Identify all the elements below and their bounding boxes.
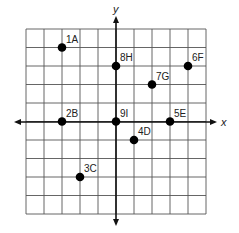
point-dot: [112, 117, 121, 126]
point-label: 3C: [84, 163, 97, 174]
point-dot: [58, 117, 67, 126]
x-axis-left-arrow-icon: [14, 119, 21, 125]
point-label: 6F: [192, 52, 204, 63]
point-dot: [58, 43, 67, 52]
point-label: 1A: [66, 34, 79, 45]
point-5e: 5E: [166, 108, 187, 126]
point-label: 4D: [138, 126, 151, 137]
point-label: 5E: [174, 108, 187, 119]
point-3c: 3C: [76, 163, 97, 181]
point-label: 2B: [66, 108, 79, 119]
point-dot: [184, 62, 193, 71]
point-label: 9I: [120, 108, 128, 119]
point-7g: 7G: [148, 71, 170, 89]
point-label: 7G: [156, 71, 170, 82]
point-4d: 4D: [130, 126, 151, 144]
point-dot: [76, 173, 85, 182]
point-dot: [130, 136, 139, 145]
point-2b: 2B: [58, 108, 79, 126]
y-axis-down-arrow-icon: [113, 219, 119, 226]
y-axis-label: y: [112, 3, 120, 15]
coordinate-grid: x y 1A2B3C4D5E6F7G8H9I: [0, 0, 239, 233]
point-8h: 8H: [112, 52, 133, 70]
point-1a: 1A: [58, 34, 79, 52]
point-9i: 9I: [112, 108, 129, 126]
point-label: 8H: [120, 52, 133, 63]
y-axis-up-arrow-icon: [113, 16, 119, 23]
point-dot: [148, 80, 157, 89]
point-6f: 6F: [184, 52, 204, 70]
x-axis-label: x: [220, 116, 227, 128]
point-dot: [112, 62, 121, 71]
point-dot: [166, 117, 175, 126]
x-axis-right-arrow-icon: [210, 119, 217, 125]
